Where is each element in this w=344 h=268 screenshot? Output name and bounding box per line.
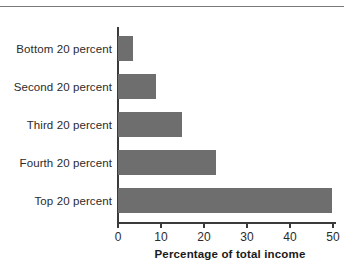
x-tick-label-20: 20: [197, 230, 210, 244]
x-axis-line: [117, 222, 336, 224]
category-label-bottom-20-percent: Bottom 20 percent: [16, 43, 112, 55]
bar-fourth-20-percent: [118, 150, 216, 175]
x-tick-10: [160, 222, 162, 228]
x-tick-label-40: 40: [283, 230, 296, 244]
bar-bottom-20-percent: [118, 36, 133, 61]
x-axis-title: Percentage of total income: [118, 248, 342, 260]
x-tick-40: [289, 222, 291, 228]
category-label-top-20-percent: Top 20 percent: [35, 195, 112, 207]
x-tick-label-10: 10: [154, 230, 167, 244]
x-tick-label-50: 50: [326, 230, 339, 244]
bar-third-20-percent: [118, 112, 182, 137]
bar-top-20-percent: [118, 188, 332, 213]
x-tick-label-0: 0: [115, 230, 122, 244]
x-tick-0: [117, 222, 119, 228]
x-tick-20: [203, 222, 205, 228]
x-tick-30: [246, 222, 248, 228]
category-label-third-20-percent: Third 20 percent: [27, 119, 112, 131]
x-tick-label-30: 30: [240, 230, 253, 244]
x-tick-50: [332, 222, 334, 228]
category-label-fourth-20-percent: Fourth 20 percent: [20, 157, 112, 169]
category-label-second-20-percent: Second 20 percent: [14, 81, 112, 93]
bar-second-20-percent: [118, 74, 156, 99]
bar-chart: Bottom 20 percent Second 20 percent Thir…: [0, 0, 344, 268]
